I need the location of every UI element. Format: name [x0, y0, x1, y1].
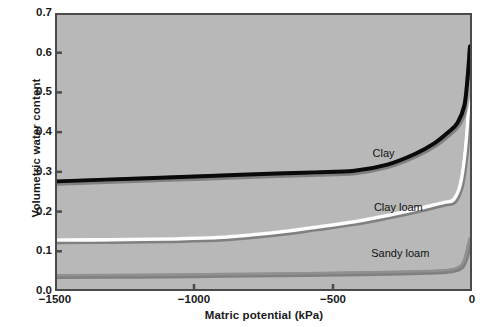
- series-shadow-clay-loam: [58, 83, 470, 242]
- y-tick-label: 0.1: [8, 245, 52, 257]
- y-tick-label: 0.4: [8, 126, 52, 138]
- x-tick-label: −1000: [159, 294, 229, 306]
- chart-figure: Volumetric water content 0.00.10.20.30.4…: [0, 0, 495, 327]
- x-tick-label: −1500: [20, 294, 90, 306]
- x-tick-label: 0: [437, 294, 495, 306]
- x-tick-label: −500: [298, 294, 368, 306]
- x-axis-title: Matric potential (kPa): [55, 309, 473, 321]
- series-shadow-clay: [58, 48, 470, 183]
- y-tick-label: 0.6: [8, 47, 52, 59]
- series-label-clay: Clay: [373, 147, 395, 159]
- y-tick-label: 0.5: [8, 86, 52, 98]
- y-axis-tick-labels: 0.00.10.20.30.40.50.60.7: [2, 0, 52, 327]
- y-tick-label: 0.2: [8, 206, 52, 218]
- series-label-clay-loam: Clay loam: [374, 201, 423, 213]
- y-tick-label: 0.7: [8, 7, 52, 19]
- y-tick-label: 0.3: [8, 166, 52, 178]
- series-label-sandy-loam: Sandy loam: [371, 247, 429, 259]
